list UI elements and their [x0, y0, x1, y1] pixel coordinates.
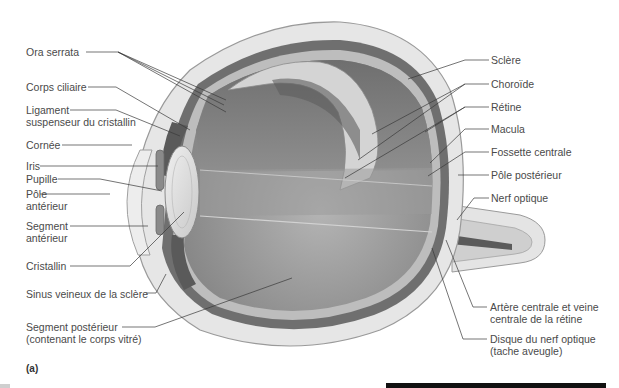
label-ora-serrata: Ora serrata — [26, 46, 79, 58]
label-pupille: Pupille — [26, 173, 58, 185]
panel-label: (a) — [26, 363, 38, 374]
bottom-left-tab — [0, 384, 10, 388]
label-segment-anterieur-line2: antérieur — [26, 232, 67, 244]
label-corps-ciliaire: Corps ciliaire — [26, 81, 87, 93]
label-fossette-centrale: Fossette centrale — [491, 146, 572, 158]
label-artere-line1: Artère centrale et veine — [490, 301, 599, 313]
iris — [156, 150, 164, 190]
label-ligament-line1: Ligament — [26, 104, 69, 116]
eye-anatomy-figure: Ora serrata Corps ciliaire Ligament susp… — [0, 0, 619, 388]
label-nerf-optique: Nerf optique — [491, 192, 548, 204]
label-sclere: Sclère — [491, 54, 521, 66]
label-pole-posterieur: Pôle postérieur — [491, 169, 562, 181]
label-disque-line2: (tache aveugle) — [490, 345, 562, 357]
label-cristallin: Cristallin — [26, 260, 66, 272]
bottom-black-bar — [386, 383, 606, 388]
label-macula: Macula — [491, 123, 525, 135]
label-pole-anterieur-line1: Pôle — [26, 188, 47, 200]
label-ligament-line2: suspenseur du cristallin — [26, 116, 136, 128]
label-cornee: Cornée — [26, 139, 60, 151]
label-segment-posterieur-line2: (contenant le corps vitré) — [26, 333, 142, 345]
label-segment-anterieur-line1: Segment — [26, 220, 68, 232]
label-pole-anterieur-line2: antérieur — [26, 200, 67, 212]
label-sinus-veineux: Sinus veineux de la sclère — [26, 288, 148, 300]
label-segment-posterieur-line1: Segment postérieur — [26, 321, 118, 333]
label-iris: Iris — [26, 160, 40, 172]
lens — [165, 146, 199, 238]
label-artere-line2: centrale de la rétine — [490, 313, 582, 325]
label-choroide: Choroïde — [491, 78, 534, 90]
label-retine: Rétine — [491, 101, 521, 113]
label-disque-line1: Disque du nerf optique — [490, 333, 596, 345]
